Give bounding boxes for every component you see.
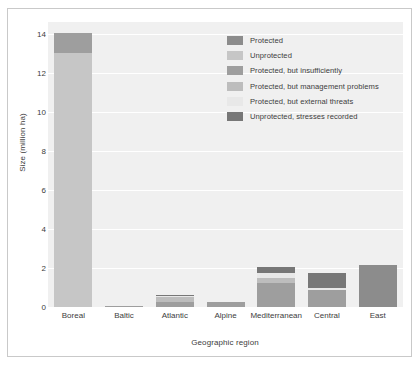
x-tick-label-alpine: Alpine [214,311,236,320]
gridline [48,307,403,308]
bar-segment [207,302,245,307]
bar-segment [105,306,143,307]
legend-swatch [227,82,243,91]
legend-swatch [227,51,243,60]
legend-swatch [227,66,243,75]
legend-swatch [227,112,243,121]
bar-alpine[interactable] [207,302,245,307]
bar-segment [308,273,346,288]
bar-baltic[interactable] [105,306,143,307]
legend-item[interactable]: Unprotected [227,48,402,63]
x-tick-label-mediterranean: Mediterranean [250,311,302,320]
legend-label: Unprotected, stresses recorded [250,112,357,121]
y-tick-label: 2 [16,263,46,272]
legend-item[interactable]: Protected [227,33,402,48]
bar-central[interactable] [308,273,346,307]
y-tick-label: 10 [16,107,46,116]
legend-label: Protected [250,36,283,45]
legend-swatch [227,97,243,106]
bar-segment [54,53,92,307]
y-tick-label: 6 [16,185,46,194]
y-tick-label: 4 [16,224,46,233]
gridline [48,190,403,191]
y-tick-label: 12 [16,68,46,77]
legend-label: Protected, but insufficiently [250,66,342,75]
x-tick-label-central: Central [314,311,340,320]
legend-item[interactable]: Unprotected, stresses recorded [227,109,402,124]
bar-segment [156,302,194,307]
legend-item[interactable]: Protected, but external threats [227,94,402,109]
legend-label: Protected, but management problems [250,82,379,91]
bar-mediterranean[interactable] [257,267,295,307]
y-tick-label: 14 [16,29,46,38]
bar-boreal[interactable] [54,33,92,307]
bar-atlantic[interactable] [156,295,194,307]
x-tick-label-boreal: Boreal [62,311,85,320]
y-tick-label: 0 [16,303,46,312]
legend-item[interactable]: Protected, but insufficiently [227,63,402,78]
chart-legend: ProtectedUnprotectedProtected, but insuf… [227,33,402,124]
legend-label: Unprotected [250,51,292,60]
x-axis-label: Geographic region [50,338,400,347]
legend-swatch [227,36,243,45]
gridline [48,229,403,230]
gridline [48,268,403,269]
gridline [48,151,403,152]
x-tick-label-atlantic: Atlantic [162,311,188,320]
bar-segment [54,33,92,53]
legend-item[interactable]: Protected, but management problems [227,79,402,94]
y-tick-label: 8 [16,146,46,155]
bar-segment [257,283,295,307]
x-tick-label-east: East [370,311,386,320]
bar-segment [359,265,397,307]
bar-segment [308,290,346,307]
bar-east[interactable] [359,265,397,307]
chart-figure: Size (million ha) Geographic region 0246… [0,0,420,366]
x-tick-label-baltic: Baltic [114,311,134,320]
legend-label: Protected, but external threats [250,97,353,106]
